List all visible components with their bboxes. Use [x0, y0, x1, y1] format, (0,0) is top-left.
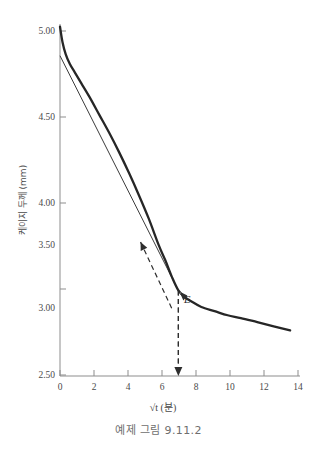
drop-arrowhead-icon [174, 367, 182, 376]
tangent-arrowhead-icon [141, 242, 148, 251]
y-tick-label-2: 3.50 [38, 240, 55, 250]
y-tick-label-1: 3.00 [38, 303, 55, 313]
secant-line [60, 56, 178, 291]
x-tick-label-6: 6 [160, 382, 165, 392]
y-axis-ticks [60, 31, 66, 375]
y-axis-title: 케이지 두께 (mm) [18, 165, 28, 235]
x-tick-label-2: 2 [92, 382, 97, 392]
consolidation-curve [60, 27, 290, 331]
x-tick-label-10: 10 [225, 382, 235, 392]
x-tick-label-4: 4 [126, 382, 131, 392]
y-tick-label-3: 4.00 [38, 198, 55, 208]
x-tick-label-0: 0 [58, 382, 63, 392]
tangent-dashed-line [141, 242, 172, 308]
x-tick-label-8: 8 [194, 382, 199, 392]
y-tick-label-5: 5.00 [38, 26, 55, 36]
figure-container: 5.00 4.50 4.00 3.50 3.00 2.50 0 2 4 6 8 … [0, 0, 317, 449]
x-tick-label-14: 14 [293, 382, 303, 392]
y-tick-label-4: 4.50 [38, 112, 55, 122]
point-E-label: E [183, 294, 191, 305]
y-tick-label-0: 2.50 [38, 370, 55, 380]
chart-svg: 5.00 4.50 4.00 3.50 3.00 2.50 0 2 4 6 8 … [0, 0, 317, 449]
x-axis-title: √t (분) [150, 402, 176, 414]
figure-caption: 예제 그림 9.11.2 [0, 421, 317, 437]
x-tick-label-12: 12 [259, 382, 269, 392]
